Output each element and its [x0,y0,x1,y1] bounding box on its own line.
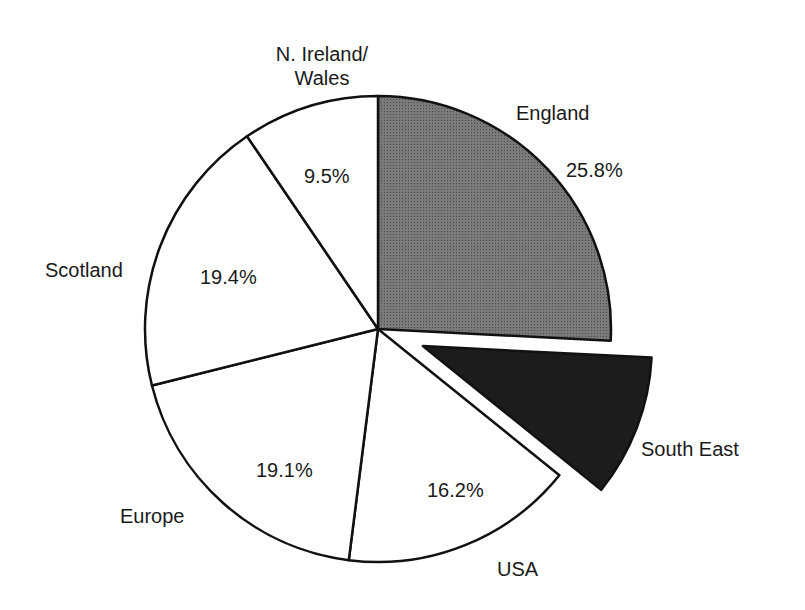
label-ni-wales-line1: N. Ireland/ [262,42,382,66]
label-usa: USA [497,557,538,581]
label-ni-wales-line2: Wales [262,66,382,90]
pie-slice-england [378,96,611,341]
label-scotland: Scotland [45,258,123,282]
pct-scotland: 19.4% [200,265,257,289]
pct-ni-wales: 9.5% [304,164,350,188]
label-england: England [516,101,589,125]
pct-england: 25.8% [566,158,623,182]
pct-usa: 16.2% [427,478,484,502]
pct-europe: 19.1% [256,458,313,482]
label-ni-wales: N. Ireland/ Wales [262,42,382,90]
label-south-east: South East [641,437,739,461]
label-europe: Europe [120,504,185,528]
